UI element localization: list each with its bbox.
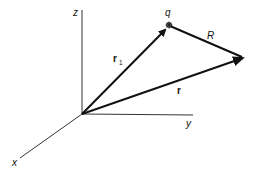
- y-axis: [82, 114, 193, 115]
- y-axis-label: y: [185, 118, 192, 129]
- x-axis-label: x: [11, 157, 18, 168]
- R-vector-label: R: [207, 30, 214, 41]
- vector-r: [82, 58, 243, 114]
- vector-diagram: z y x q R r r 1: [0, 0, 255, 172]
- x-axis: [20, 114, 82, 158]
- r-vector-label: r: [177, 85, 181, 96]
- r1-vector-label: r: [113, 53, 117, 64]
- r1-subscript: 1: [119, 59, 123, 66]
- vector-r1: [82, 30, 165, 114]
- vector-R: [170, 26, 242, 57]
- z-axis-label: z: [72, 7, 78, 18]
- charge-label: q: [165, 7, 171, 18]
- charge-point-icon: [166, 22, 173, 29]
